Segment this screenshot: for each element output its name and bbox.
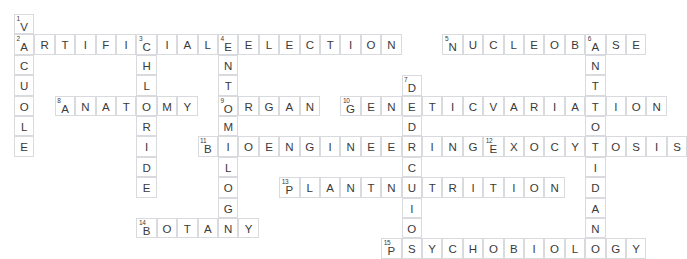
crossword-cell[interactable]: B bbox=[504, 238, 524, 258]
crossword-cell[interactable]: C bbox=[300, 34, 320, 54]
crossword-cell[interactable]: N bbox=[218, 218, 238, 238]
crossword-cell[interactable]: I bbox=[157, 34, 177, 54]
crossword-cell[interactable]: R bbox=[442, 177, 462, 197]
crossword-cell[interactable]: G bbox=[606, 238, 626, 258]
crossword-cell[interactable]: F bbox=[96, 34, 116, 54]
crossword-cell[interactable]: L bbox=[218, 157, 238, 177]
crossword-cell[interactable]: S bbox=[667, 136, 687, 156]
crossword-cell[interactable]: U bbox=[14, 75, 34, 95]
crossword-cell[interactable]: G bbox=[259, 96, 279, 116]
crossword-cell[interactable]: 2A bbox=[14, 34, 34, 54]
crossword-cell[interactable]: N bbox=[279, 136, 299, 156]
crossword-cell[interactable]: I bbox=[218, 136, 238, 156]
crossword-cell[interactable]: Y bbox=[177, 96, 197, 116]
crossword-cell[interactable]: I bbox=[646, 136, 666, 156]
crossword-cell[interactable]: O bbox=[544, 34, 564, 54]
crossword-cell[interactable]: I bbox=[340, 34, 360, 54]
crossword-cell[interactable]: N bbox=[585, 218, 605, 238]
crossword-cell[interactable]: N bbox=[585, 55, 605, 75]
crossword-cell[interactable]: T bbox=[55, 34, 75, 54]
crossword-cell[interactable]: T bbox=[422, 96, 442, 116]
crossword-cell[interactable]: A bbox=[320, 177, 340, 197]
crossword-cell[interactable]: I bbox=[544, 96, 564, 116]
crossword-cell[interactable]: E bbox=[626, 34, 646, 54]
crossword-cell[interactable]: L bbox=[300, 177, 320, 197]
crossword-cell[interactable]: I bbox=[606, 96, 626, 116]
crossword-cell[interactable]: E bbox=[279, 34, 299, 54]
crossword-cell[interactable]: N bbox=[381, 34, 401, 54]
crossword-cell[interactable]: R bbox=[524, 96, 544, 116]
crossword-cell[interactable]: B bbox=[565, 34, 585, 54]
crossword-cell[interactable]: Y bbox=[626, 238, 646, 258]
crossword-cell[interactable]: 6A bbox=[585, 34, 605, 54]
crossword-cell[interactable]: T bbox=[422, 177, 442, 197]
crossword-cell[interactable]: N bbox=[218, 55, 238, 75]
crossword-cell[interactable]: 14B bbox=[136, 218, 156, 238]
crossword-cell[interactable]: R bbox=[238, 96, 258, 116]
crossword-cell[interactable]: O bbox=[585, 116, 605, 136]
crossword-cell[interactable]: 8A bbox=[55, 96, 75, 116]
crossword-cell[interactable]: M bbox=[157, 96, 177, 116]
crossword-cell[interactable]: E bbox=[136, 177, 156, 197]
crossword-cell[interactable]: A bbox=[565, 96, 585, 116]
crossword-cell[interactable]: X bbox=[504, 136, 524, 156]
crossword-cell[interactable]: N bbox=[340, 177, 360, 197]
crossword-cell[interactable]: O bbox=[136, 96, 156, 116]
crossword-cell[interactable]: O bbox=[402, 218, 422, 238]
crossword-cell[interactable]: S bbox=[626, 136, 646, 156]
crossword-cell[interactable]: O bbox=[218, 177, 238, 197]
crossword-cell[interactable]: I bbox=[442, 96, 462, 116]
crossword-cell[interactable]: I bbox=[75, 34, 95, 54]
crossword-cell[interactable]: E bbox=[361, 96, 381, 116]
crossword-cell[interactable]: A bbox=[504, 96, 524, 116]
crossword-cell[interactable]: 15P bbox=[381, 238, 401, 258]
crossword-cell[interactable]: A bbox=[198, 218, 218, 238]
crossword-cell[interactable]: Y bbox=[422, 238, 442, 258]
crossword-cell[interactable]: I bbox=[116, 34, 136, 54]
crossword-cell[interactable]: S bbox=[402, 238, 422, 258]
crossword-cell[interactable]: 11B bbox=[198, 136, 218, 156]
crossword-cell[interactable]: N bbox=[75, 96, 95, 116]
crossword-cell[interactable]: O bbox=[483, 238, 503, 258]
crossword-cell[interactable]: T bbox=[585, 75, 605, 95]
crossword-cell[interactable]: G bbox=[463, 136, 483, 156]
crossword-cell[interactable]: A bbox=[177, 34, 197, 54]
crossword-cell[interactable]: Y bbox=[238, 218, 258, 238]
crossword-cell[interactable]: 13P bbox=[279, 177, 299, 197]
crossword-cell[interactable]: I bbox=[422, 136, 442, 156]
crossword-cell[interactable]: Y bbox=[565, 136, 585, 156]
crossword-cell[interactable]: O bbox=[585, 238, 605, 258]
crossword-cell[interactable]: S bbox=[606, 34, 626, 54]
crossword-cell[interactable]: L bbox=[565, 238, 585, 258]
crossword-cell[interactable]: G bbox=[300, 136, 320, 156]
crossword-cell[interactable]: 7D bbox=[402, 75, 422, 95]
crossword-cell[interactable]: D bbox=[136, 157, 156, 177]
crossword-cell[interactable]: N bbox=[442, 136, 462, 156]
crossword-cell[interactable]: R bbox=[34, 34, 54, 54]
crossword-cell[interactable]: I bbox=[463, 177, 483, 197]
crossword-cell[interactable]: I bbox=[136, 136, 156, 156]
crossword-cell[interactable]: D bbox=[585, 177, 605, 197]
crossword-cell[interactable]: T bbox=[585, 136, 605, 156]
crossword-cell[interactable]: T bbox=[483, 177, 503, 197]
crossword-cell[interactable]: G bbox=[218, 198, 238, 218]
crossword-cell[interactable]: M bbox=[218, 116, 238, 136]
crossword-cell[interactable]: U bbox=[463, 34, 483, 54]
crossword-cell[interactable]: I bbox=[524, 238, 544, 258]
crossword-cell[interactable]: O bbox=[14, 96, 34, 116]
crossword-cell[interactable]: H bbox=[136, 55, 156, 75]
crossword-cell[interactable]: A bbox=[96, 96, 116, 116]
crossword-cell[interactable]: N bbox=[340, 136, 360, 156]
crossword-cell[interactable]: A bbox=[585, 198, 605, 218]
crossword-cell[interactable]: O bbox=[544, 238, 564, 258]
crossword-cell[interactable]: N bbox=[646, 96, 666, 116]
crossword-cell[interactable]: T bbox=[361, 177, 381, 197]
crossword-cell[interactable]: O bbox=[361, 34, 381, 54]
crossword-cell[interactable]: H bbox=[463, 238, 483, 258]
crossword-cell[interactable]: T bbox=[585, 96, 605, 116]
crossword-cell[interactable]: U bbox=[402, 177, 422, 197]
crossword-cell[interactable]: 12E bbox=[483, 136, 503, 156]
crossword-cell[interactable]: T bbox=[320, 34, 340, 54]
crossword-cell[interactable]: L bbox=[14, 116, 34, 136]
crossword-cell[interactable]: T bbox=[218, 75, 238, 95]
